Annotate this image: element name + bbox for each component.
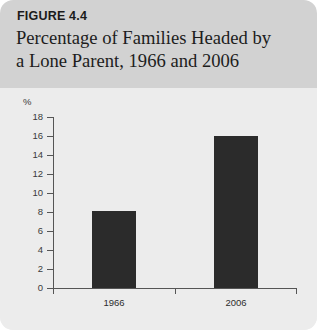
y-axis-tick-label: 6 (21, 226, 43, 236)
figure-title: Percentage of Families Headed by a Lone … (16, 27, 308, 72)
figure-title-line-2: a Lone Parent, 1966 and 2006 (16, 50, 308, 73)
y-axis-tick (47, 117, 53, 118)
x-axis-tick (175, 288, 176, 294)
y-axis-tick-label: 18 (21, 112, 43, 122)
y-axis-tick (47, 136, 53, 137)
y-axis-tick (47, 212, 53, 213)
x-axis-tick (296, 288, 297, 294)
figure-title-line-1: Percentage of Families Headed by (16, 27, 308, 50)
bar (214, 136, 258, 288)
y-axis-tick-label: 10 (21, 188, 43, 198)
bar (92, 211, 136, 288)
y-axis-tick (47, 250, 53, 251)
y-axis-tick-label: 16 (21, 131, 43, 141)
y-axis-tick (47, 269, 53, 270)
y-axis-tick (47, 193, 53, 194)
x-axis-category-label: 2006 (206, 297, 266, 308)
y-axis-unit-label: % (23, 96, 31, 107)
y-axis-tick-label: 4 (21, 245, 43, 255)
y-axis-tick (47, 174, 53, 175)
y-axis-tick-label: 8 (21, 207, 43, 217)
y-axis-line (53, 117, 54, 289)
chart-plot-area: % 024681012141618 19662006 (0, 88, 317, 330)
y-axis-tick (47, 155, 53, 156)
figure-number-label: FIGURE 4.4 (17, 9, 87, 23)
y-axis-tick-label: 14 (21, 150, 43, 160)
figure-card: FIGURE 4.4 Percentage of Families Headed… (0, 0, 317, 330)
y-axis-tick-label: 2 (21, 264, 43, 274)
y-axis-tick-label: 0 (21, 283, 43, 293)
y-axis-tick-label: 12 (21, 169, 43, 179)
y-axis-tick (47, 231, 53, 232)
x-axis-tick (53, 288, 54, 294)
figure-header-band: FIGURE 4.4 Percentage of Families Headed… (0, 0, 317, 88)
x-axis-category-label: 1966 (84, 297, 144, 308)
